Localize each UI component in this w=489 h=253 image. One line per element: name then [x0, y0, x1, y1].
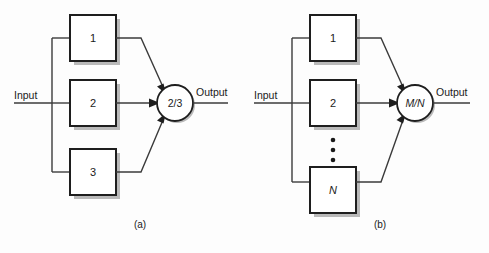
- module-label: 2: [330, 97, 336, 109]
- panel-a-input-label: Input: [14, 89, 37, 101]
- panel-b-input-label: Input: [254, 89, 277, 101]
- panel-a-module-2: 2: [70, 80, 120, 130]
- ellipsis-dot: [331, 138, 336, 143]
- module-label: 3: [90, 166, 96, 178]
- module-label: 1: [330, 32, 336, 44]
- ellipsis-dot: [331, 158, 336, 163]
- panel-b-link-n: [356, 120, 403, 182]
- module-label: N: [329, 184, 337, 196]
- panel-b-caption: (b): [374, 219, 386, 230]
- panel-a-link-1: [116, 38, 163, 87]
- panel-b-voter: M/N: [397, 85, 435, 123]
- voter-label: 2/3: [168, 97, 183, 109]
- panel-b-link-1: [356, 38, 403, 87]
- panel-b: 1 2 N: [254, 15, 470, 230]
- panel-b-module-2: 2: [310, 80, 360, 130]
- figure-container: 1 2 3: [0, 0, 489, 253]
- panel-b-module-n: N: [310, 167, 360, 217]
- panel-a-input-bus: [14, 38, 70, 172]
- module-label: 2: [90, 97, 96, 109]
- panel-a-voter: 2/3: [157, 85, 195, 123]
- tmr-nmr-diagram: 1 2 3: [0, 0, 489, 253]
- panel-b-input-bus: [254, 38, 310, 182]
- ellipsis-dot: [331, 148, 336, 153]
- panel-b-output-label: Output: [436, 86, 468, 98]
- voter-label: M/N: [405, 97, 425, 109]
- module-label: 1: [90, 32, 96, 44]
- panel-b-ellipsis: [331, 138, 336, 163]
- panel-b-module-1: 1: [310, 15, 360, 65]
- panel-a-module-3: 3: [70, 149, 120, 199]
- panel-a: 1 2 3: [14, 15, 228, 230]
- panel-a-link-3: [116, 120, 163, 172]
- panel-a-output-label: Output: [196, 86, 228, 98]
- panel-a-module-1: 1: [70, 15, 120, 65]
- panel-a-caption: (a): [134, 219, 146, 230]
